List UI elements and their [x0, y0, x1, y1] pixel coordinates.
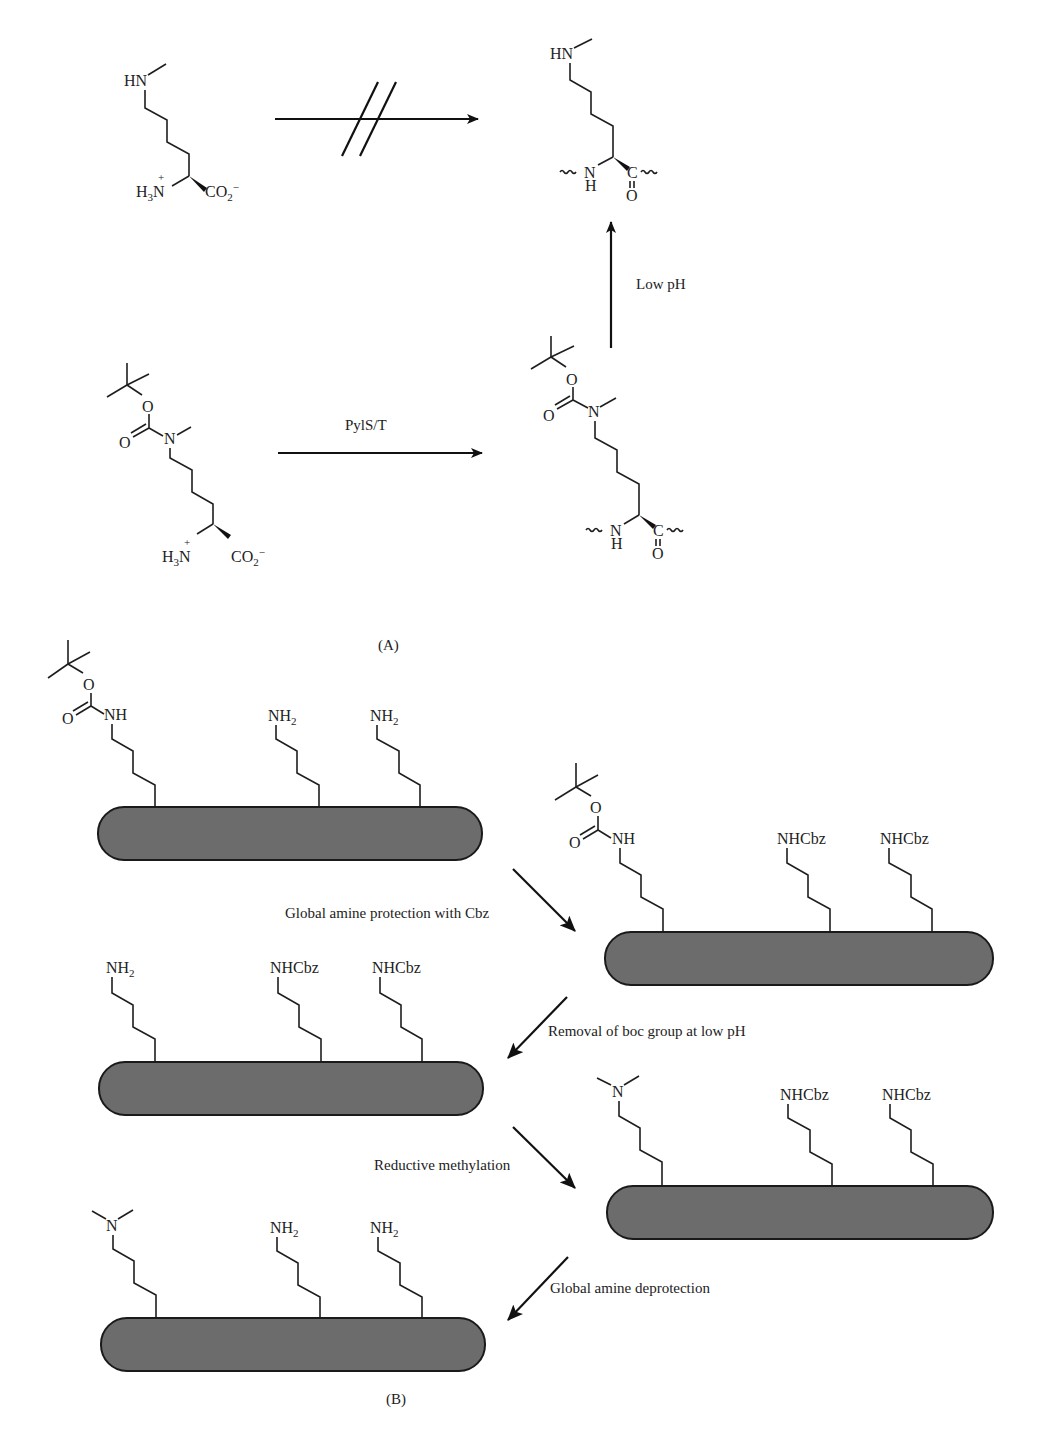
backbone-h: H — [585, 177, 597, 194]
ester-o: O — [142, 398, 154, 415]
group-nhcbz: NHCbz — [372, 959, 421, 976]
pyls-arrow: PylS/T — [278, 417, 482, 453]
molecule-peptide-methyllysine: HN N H C O — [550, 39, 657, 204]
atom-h3n: H3N — [162, 548, 191, 568]
step-label-methylation: Reductive methylation — [374, 1157, 511, 1173]
group-nme2: N — [106, 1217, 118, 1234]
charge-plus: + — [158, 171, 164, 183]
step-4-arrow: Global amine deprotection — [508, 1257, 710, 1320]
blocked-arrow — [275, 82, 478, 156]
group-nh2: NH2 — [270, 1219, 299, 1239]
group-nh2: NH2 — [370, 1219, 399, 1239]
atom-hn: HN — [124, 72, 148, 89]
backbone-c: C — [653, 522, 664, 539]
step-label-boc-removal: Removal of boc group at low pH — [548, 1023, 746, 1039]
step-label-deprotection: Global amine deprotection — [550, 1280, 710, 1296]
group-nhcbz: NHCbz — [880, 830, 929, 847]
ester-o: O — [566, 371, 578, 388]
polymer-rod — [98, 807, 482, 860]
rod-4: N NHCbz NHCbz — [597, 1076, 993, 1239]
molecule-peptide-boc-methyllysine: O O N N H C O — [531, 336, 683, 562]
carboxylate: CO2− — [205, 181, 239, 203]
wavy-bond — [641, 171, 657, 174]
group-nhcbz: NHCbz — [780, 1086, 829, 1103]
arrow-label-low-ph: Low pH — [636, 276, 686, 292]
carbonyl-o: O — [569, 834, 581, 851]
atom-n: N — [164, 430, 176, 447]
step-label-cbz: Global amine protection with Cbz — [285, 905, 489, 921]
backbone-c: C — [627, 164, 638, 181]
reaction-scheme-figure: HN H3N + CO2− HN N H C — [0, 0, 1037, 1440]
backbone-o: O — [626, 187, 638, 204]
rod-3: NH2 NHCbz NHCbz — [99, 959, 483, 1115]
arrow-label-pyls: PylS/T — [345, 417, 387, 433]
group-nhcbz: NHCbz — [270, 959, 319, 976]
group-nh2: NH2 — [370, 707, 399, 727]
group-nh: NH — [612, 830, 636, 847]
group-nh2: NH2 — [268, 707, 297, 727]
wavy-bond — [560, 171, 576, 174]
step-1-arrow: Global amine protection with Cbz — [285, 869, 575, 931]
step-3-arrow: Reductive methylation — [374, 1127, 575, 1188]
panel-a-label: (A) — [378, 637, 399, 654]
atom-hn: HN — [550, 45, 574, 62]
panel-a: HN H3N + CO2− HN N H C — [107, 39, 686, 654]
rod-2: O O NH NHCbz NHCbz — [555, 763, 993, 985]
polymer-rod — [99, 1062, 483, 1115]
molecule-methyllysine: HN H3N + CO2− — [124, 64, 239, 203]
group-nhcbz: NHCbz — [882, 1086, 931, 1103]
carboxylate: CO2− — [231, 546, 265, 568]
rod-5: N NH2 NH2 — [92, 1210, 485, 1371]
polymer-rod — [607, 1186, 993, 1239]
ester-o: O — [590, 799, 602, 816]
step-2-arrow: Removal of boc group at low pH — [508, 997, 746, 1058]
group-nh: NH — [104, 706, 128, 723]
polymer-rod — [605, 932, 993, 985]
group-nhcbz: NHCbz — [777, 830, 826, 847]
panel-b: O O NH NH2 NH2 Global amine protection w… — [48, 640, 993, 1408]
atom-n: N — [588, 403, 600, 420]
polymer-rod — [101, 1318, 485, 1371]
charge-plus: + — [184, 536, 190, 548]
backbone-h: H — [611, 535, 623, 552]
wavy-bond — [667, 529, 683, 532]
molecule-boc-methyllysine: O O N H3N + CO2− — [107, 363, 265, 568]
ester-o: O — [83, 676, 95, 693]
low-ph-arrow: Low pH — [611, 222, 686, 348]
panel-b-label: (B) — [386, 1391, 406, 1408]
carbonyl-o: O — [543, 407, 555, 424]
backbone-o: O — [652, 545, 664, 562]
atom-h3n: H3N — [136, 183, 165, 203]
group-nh2: NH2 — [106, 959, 135, 979]
carbonyl-o: O — [119, 434, 131, 451]
group-nme2: N — [612, 1083, 624, 1100]
rod-1: O O NH NH2 NH2 — [48, 640, 482, 860]
carbonyl-o: O — [62, 710, 74, 727]
wavy-bond — [586, 529, 602, 532]
